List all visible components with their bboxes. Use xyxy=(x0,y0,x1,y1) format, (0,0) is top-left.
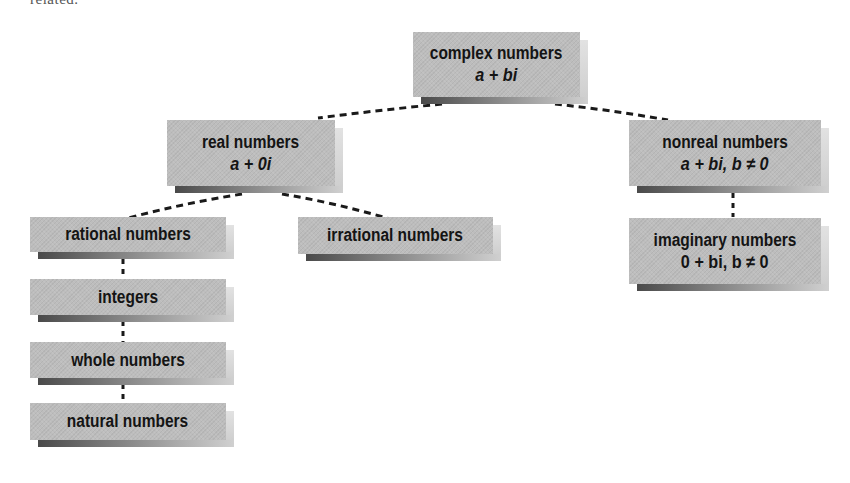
node-rational-numbers: rational numbers xyxy=(30,217,226,252)
node-formula: a + bi xyxy=(476,64,518,86)
node-real-numbers: real numbers a + 0i xyxy=(167,120,335,186)
edge-complex-real xyxy=(318,104,442,118)
node-formula: a + bi, b ≠ 0 xyxy=(681,153,769,175)
node-natural-numbers: natural numbers xyxy=(30,403,226,440)
node-complex-numbers: complex numbers a + bi xyxy=(413,32,580,97)
edge-complex-nonreal xyxy=(555,104,668,120)
node-label: irrational numbers xyxy=(328,225,464,246)
node-label: integers xyxy=(98,287,158,308)
node-label: real numbers xyxy=(202,132,299,153)
edge-real-rational xyxy=(128,194,242,218)
node-formula: a + 0i xyxy=(230,153,271,175)
node-label: rational numbers xyxy=(65,224,191,245)
node-formula: 0 + bi, b ≠ 0 xyxy=(681,251,769,273)
node-label: whole numbers xyxy=(71,350,185,371)
node-integers: integers xyxy=(30,279,226,315)
node-label: imaginary numbers xyxy=(654,230,797,251)
node-imaginary-numbers: imaginary numbers 0 + bi, b ≠ 0 xyxy=(629,218,821,284)
node-irrational-numbers: irrational numbers xyxy=(298,217,493,254)
node-label: natural numbers xyxy=(67,411,188,432)
node-label: complex numbers xyxy=(430,43,562,64)
node-label: nonreal numbers xyxy=(662,132,788,153)
node-whole-numbers: whole numbers xyxy=(30,342,226,378)
edge-real-irrational xyxy=(282,194,390,219)
node-nonreal-numbers: nonreal numbers a + bi, b ≠ 0 xyxy=(629,120,821,186)
